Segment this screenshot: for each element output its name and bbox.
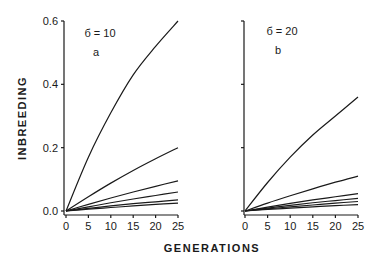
y-tick-label: 0.0	[43, 205, 58, 217]
x-tick-label: 15	[307, 220, 319, 232]
x-tick-label: 25	[352, 220, 364, 232]
x-tick-label: 5	[265, 220, 271, 232]
series-line	[66, 21, 178, 211]
panel-label: a	[93, 46, 100, 58]
series-line	[245, 97, 358, 211]
x-tick-label: 0	[242, 220, 248, 232]
y-tick-label: 0.4	[43, 78, 58, 90]
panel-title: б = 20	[266, 25, 297, 37]
x-tick-label: 5	[85, 220, 91, 232]
x-tick-label: 10	[105, 220, 117, 232]
y-tick-label: 0.6	[43, 15, 58, 27]
x-tick-label: 15	[127, 220, 139, 232]
x-tick-label: 10	[284, 220, 296, 232]
panel-b: 0510152025б = 20b	[241, 21, 364, 232]
x-tick-label: 20	[329, 220, 341, 232]
x-tick-label: 0	[63, 220, 69, 232]
panel-label: b	[275, 44, 281, 56]
x-tick-label: 25	[172, 220, 184, 232]
panel-a: 0.00.20.40.60510152025б = 10a	[43, 15, 184, 232]
chart-canvas: INBREEDING GENERATIONS 0.00.20.40.605101…	[0, 0, 384, 268]
y-axis-label: INBREEDING	[16, 76, 28, 160]
inbreeding-figure: INBREEDING GENERATIONS 0.00.20.40.605101…	[0, 0, 384, 268]
x-tick-label: 20	[149, 220, 161, 232]
y-tick-label: 0.2	[43, 142, 58, 154]
panel-title: б = 10	[84, 27, 115, 39]
x-axis-label: GENERATIONS	[164, 242, 260, 254]
